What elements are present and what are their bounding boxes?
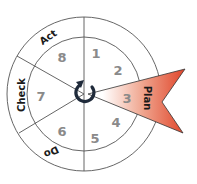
step-6: 6 <box>57 124 66 139</box>
step-4: 4 <box>111 115 120 130</box>
cycle-wheel: 1 2 3 4 5 6 7 8 Act Check Do Plan <box>0 0 197 184</box>
phase-label-do: Do <box>42 144 61 160</box>
phase-label-plan: Plan <box>142 86 153 111</box>
step-8: 8 <box>57 50 66 65</box>
step-2: 2 <box>113 63 122 78</box>
phase-label-check: Check <box>16 78 27 112</box>
step-5: 5 <box>90 131 99 146</box>
step-7: 7 <box>36 89 45 104</box>
step-3: 3 <box>122 91 131 106</box>
step-1: 1 <box>91 46 100 61</box>
divider-check-do <box>19 94 84 133</box>
pdca-cycle-diagram: 1 2 3 4 5 6 7 8 Act Check Do Plan <box>0 0 197 184</box>
plan-highlight-arrow <box>88 69 185 133</box>
